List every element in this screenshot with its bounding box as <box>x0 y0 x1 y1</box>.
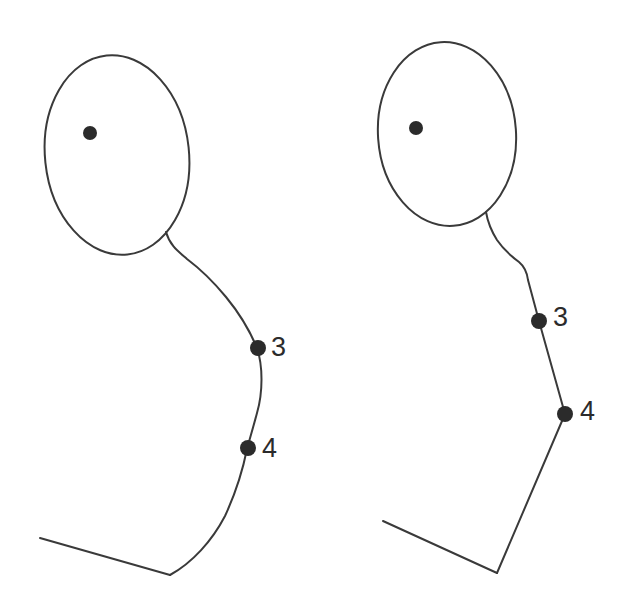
right-shoulder-line <box>383 521 497 573</box>
left-eye-dot <box>83 126 97 140</box>
right-head-outline <box>372 37 522 230</box>
left-landmark-3-dot[interactable] <box>250 340 266 356</box>
right-figure: 3 4 <box>372 37 595 573</box>
left-shoulder-line <box>40 538 170 575</box>
left-neck-body-contour <box>166 232 262 575</box>
left-head-outline <box>35 48 199 262</box>
left-figure: 3 4 <box>35 48 286 575</box>
right-landmark-4-label: 4 <box>580 396 595 426</box>
right-lower-body-line <box>497 414 565 573</box>
right-landmark-4-dot[interactable] <box>557 406 573 422</box>
left-landmark-3-label: 3 <box>271 332 286 362</box>
right-landmark-3-label: 3 <box>553 302 568 332</box>
right-eye-dot <box>409 121 423 135</box>
left-landmark-4-dot[interactable] <box>240 440 256 456</box>
contour-comparison-drawing: 3 4 3 4 <box>0 0 628 615</box>
left-landmark-4-label: 4 <box>262 433 277 463</box>
figure-canvas: 3 4 3 4 <box>0 0 628 615</box>
right-landmark-3-dot[interactable] <box>531 313 547 329</box>
